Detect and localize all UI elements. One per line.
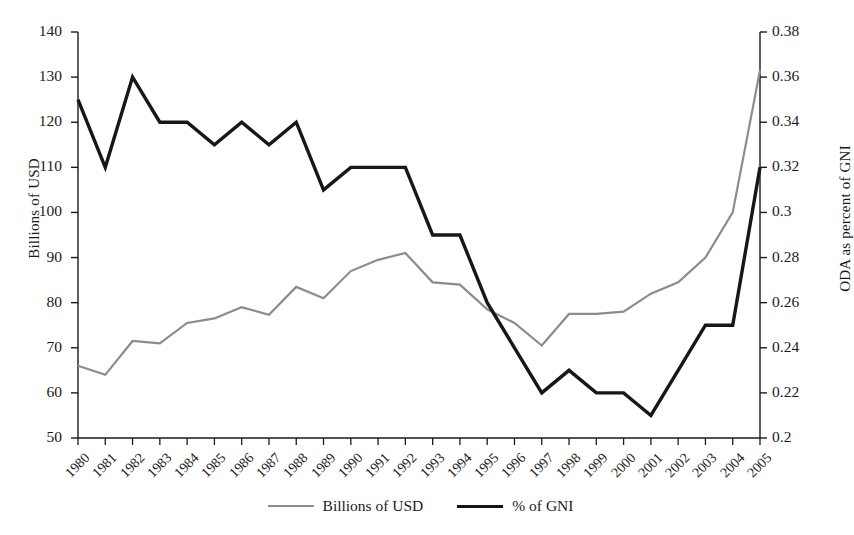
- right-tick-label: 0.22: [772, 383, 818, 401]
- right-tick-label: 0.36: [772, 67, 818, 85]
- right-tick-label: 0.38: [772, 22, 818, 40]
- left-tick-label: 130: [22, 67, 62, 85]
- left-tick-label: 110: [22, 157, 62, 175]
- chart-legend: Billions of USD % of GNI: [0, 497, 841, 515]
- axis-lines: [78, 32, 760, 438]
- right-tick-label: 0.28: [772, 248, 818, 266]
- series-line-billions-of-usd: [78, 70, 760, 375]
- right-axis-title: ODA as percent of GNI: [837, 109, 854, 329]
- legend-item-billions-of-usd[interactable]: Billions of USD: [268, 497, 424, 515]
- series-layer: [78, 70, 760, 415]
- legend-line-gray-icon: [268, 505, 314, 507]
- left-tick-label: 60: [22, 383, 62, 401]
- right-tick-label: 0.2: [772, 428, 818, 446]
- right-tick-label: 0.32: [772, 157, 818, 175]
- left-tick-label: 80: [22, 293, 62, 311]
- right-axis-ticks: [760, 32, 767, 438]
- right-tick-label: 0.26: [772, 293, 818, 311]
- left-tick-label: 50: [22, 428, 62, 446]
- left-tick-label: 140: [22, 22, 62, 40]
- right-tick-label: 0.34: [772, 112, 818, 130]
- series-line-of-gni: [78, 77, 760, 415]
- left-tick-label: 100: [22, 202, 62, 220]
- left-tick-label: 90: [22, 248, 62, 266]
- left-axis-ticks: [71, 32, 78, 438]
- legend-item-percent-of-gni[interactable]: % of GNI: [457, 497, 573, 515]
- right-tick-label: 0.3: [772, 202, 818, 220]
- legend-label-billions-of-usd: Billions of USD: [323, 497, 424, 515]
- right-tick-label: 0.24: [772, 338, 818, 356]
- left-tick-label: 70: [22, 338, 62, 356]
- legend-label-percent-of-gni: % of GNI: [512, 497, 573, 515]
- left-tick-label: 120: [22, 112, 62, 130]
- legend-line-black-icon: [457, 505, 503, 508]
- bottom-axis-ticks: [78, 438, 760, 445]
